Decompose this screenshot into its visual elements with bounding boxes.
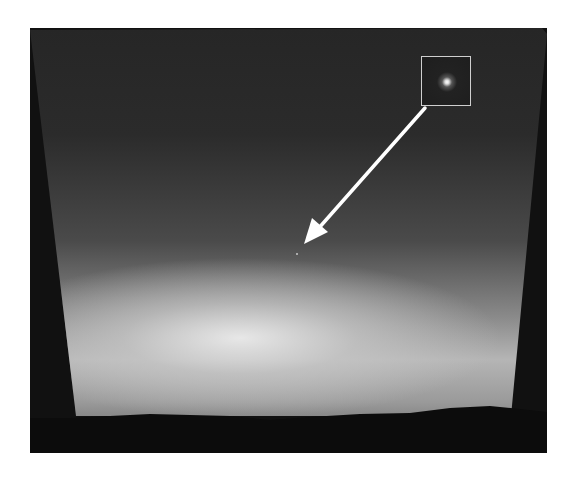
magnified-inset-box bbox=[421, 56, 471, 106]
point-of-light bbox=[296, 253, 298, 255]
